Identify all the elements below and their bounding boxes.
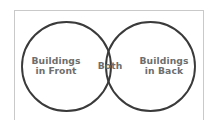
venn-diagram-screenshot: Buildings in Front Both Buildings in Bac…: [0, 0, 213, 120]
venn-label-buildings-in-front: Buildings in Front: [22, 56, 90, 76]
venn-label-left-line-2: in Front: [22, 66, 90, 76]
venn-label-buildings-in-back: Buildings in Back: [130, 56, 198, 76]
venn-label-both: Both: [92, 61, 128, 71]
venn-label-right-line-2: in Back: [130, 66, 198, 76]
venn-label-both-line-1: Both: [92, 61, 128, 71]
